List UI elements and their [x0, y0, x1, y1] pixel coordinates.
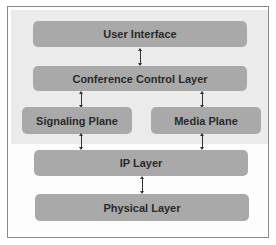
signaling-plane-label: Signaling Plane [36, 115, 118, 127]
arrow-signaling-to-ip [81, 134, 82, 149]
conference-control-layer-label: Conference Control Layer [72, 73, 207, 85]
ip-layer-label: IP Layer [120, 157, 163, 169]
conference-control-layer-box: Conference Control Layer [33, 66, 247, 91]
arrow-media-to-ip [202, 134, 203, 149]
ip-layer-box: IP Layer [34, 150, 248, 176]
arrow-ip-to-physical [142, 177, 143, 193]
media-plane-box: Media Plane [151, 107, 261, 134]
user-interface-box: User Interface [33, 21, 247, 47]
signaling-plane-box: Signaling Plane [22, 107, 132, 134]
arrow-conference-to-signaling [81, 92, 82, 107]
physical-layer-label: Physical Layer [103, 202, 180, 214]
arrow-ui-to-conference [140, 49, 141, 65]
physical-layer-box: Physical Layer [35, 194, 249, 221]
arrow-conference-to-media [202, 92, 203, 107]
user-interface-label: User Interface [103, 28, 176, 40]
media-plane-label: Media Plane [174, 115, 238, 127]
